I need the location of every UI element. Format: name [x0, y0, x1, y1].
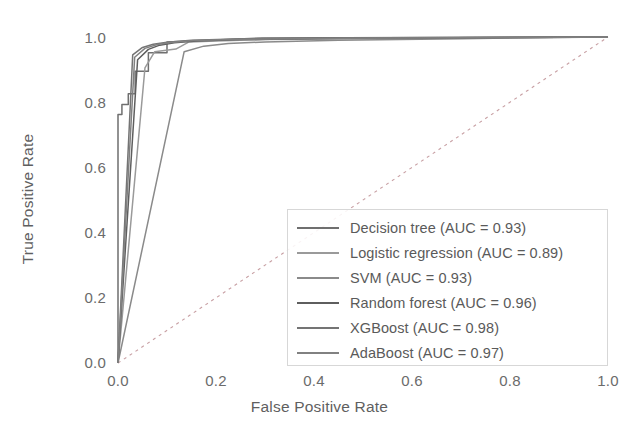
legend-item-adaboost[interactable]: AdaBoost (AUC = 0.97): [288, 340, 607, 365]
legend-item-label: Decision tree (AUC = 0.93): [350, 220, 526, 236]
legend-box: Decision tree (AUC = 0.93)Logistic regre…: [287, 209, 608, 366]
y-tick-label: 0.2: [48, 289, 106, 306]
y-tick-label: 1.0: [48, 29, 106, 46]
legend-item-label: Logistic regression (AUC = 0.89): [350, 245, 563, 261]
legend-item-decision-tree[interactable]: Decision tree (AUC = 0.93): [288, 215, 607, 240]
legend-line-swatch: [297, 352, 339, 354]
x-axis-title: False Positive Rate: [0, 398, 639, 416]
y-tick-label: 0.0: [48, 354, 106, 371]
legend-item-label: Random forest (AUC = 0.96): [350, 295, 537, 311]
x-tick-label: 0.4: [294, 372, 334, 389]
legend-item-xgboost[interactable]: XGBoost (AUC = 0.98): [288, 315, 607, 340]
legend-item-label: XGBoost (AUC = 0.98): [350, 320, 499, 336]
y-tick-label: 0.6: [48, 159, 106, 176]
legend-item-label: AdaBoost (AUC = 0.97): [350, 345, 504, 361]
legend-item-svm[interactable]: SVM (AUC = 0.93): [288, 265, 607, 290]
legend-line-swatch: [297, 227, 339, 229]
legend-line-swatch: [297, 252, 339, 254]
x-tick-label: 0.6: [392, 372, 432, 389]
legend-line-swatch: [297, 327, 339, 329]
y-axis-title: True Positive Rate: [19, 109, 37, 289]
legend-item-label: SVM (AUC = 0.93): [350, 270, 472, 286]
y-tick-label: 0.8: [48, 94, 106, 111]
legend-line-swatch: [297, 277, 339, 279]
legend-item-logistic-regression[interactable]: Logistic regression (AUC = 0.89): [288, 240, 607, 265]
roc-curve-figure: 1.0 0.8 0.6 0.4 0.2 0.0 0.0 0.2 0.4 0.6 …: [0, 0, 639, 446]
x-tick-label: 1.0: [588, 372, 628, 389]
x-tick-label: 0.8: [490, 372, 530, 389]
legend-line-swatch: [297, 302, 339, 304]
x-tick-label: 0.0: [98, 372, 138, 389]
x-tick-label: 0.2: [196, 372, 236, 389]
y-tick-label: 0.4: [48, 224, 106, 241]
legend-item-random-forest[interactable]: Random forest (AUC = 0.96): [288, 290, 607, 315]
